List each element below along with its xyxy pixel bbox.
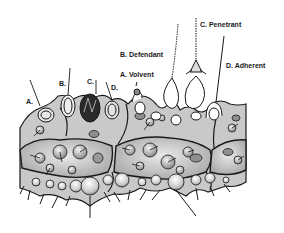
label-c-left: C. xyxy=(87,78,94,86)
label-defendant: B. Defendant xyxy=(120,51,163,59)
epidermis-illustration xyxy=(0,0,284,233)
label-penetrant: C. Penetrant xyxy=(200,21,241,29)
label-a-left: A. xyxy=(26,98,33,106)
nematocyst-diagram: A. B. C. D. A. Volvent B. Defendant C. P… xyxy=(0,0,284,233)
label-d-left: D. xyxy=(111,84,118,92)
label-b-left: B. xyxy=(59,80,66,88)
label-volvent: A. Volvent xyxy=(120,71,154,79)
label-adherent: D. Adherent xyxy=(226,62,265,70)
